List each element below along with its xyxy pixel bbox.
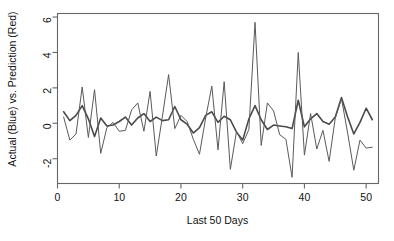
y-tick-label: 4 [41, 52, 53, 58]
y-tick-label: 6 [41, 17, 53, 23]
x-tick-label: 10 [113, 191, 125, 203]
y-axis: -20246 [41, 17, 57, 168]
x-tick-label: 30 [237, 191, 249, 203]
x-axis: 01020304050 [55, 184, 373, 203]
series-line-1 [64, 98, 373, 141]
chart-container: Actual (Blue) vs. Prediction (Red) Last … [0, 0, 394, 241]
x-tick-label: 50 [360, 191, 372, 203]
y-tick-label: 0 [41, 123, 53, 129]
x-tick-label: 40 [299, 191, 311, 203]
x-tick-label: 20 [175, 191, 187, 203]
y-tick-label: 2 [41, 88, 53, 94]
plot-frame [58, 14, 379, 184]
x-tick-label: 0 [55, 191, 61, 203]
series-line-2 [64, 22, 373, 177]
y-tick-label: -2 [41, 159, 53, 168]
data-series-group [64, 22, 373, 177]
plot-canvas: -20246 01020304050 [0, 0, 394, 241]
